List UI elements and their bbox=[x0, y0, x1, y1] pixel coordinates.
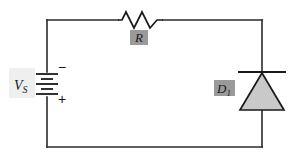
source-label-subscript: S bbox=[23, 84, 28, 95]
diode-anode-triangle bbox=[240, 73, 284, 110]
source-plus-sign: + bbox=[58, 91, 66, 107]
diode-label-subscript: 1 bbox=[226, 88, 231, 98]
resistor-symbol bbox=[118, 12, 163, 28]
diode-label: D1 bbox=[214, 80, 235, 98]
diode-symbol bbox=[238, 72, 286, 110]
voltage-source-symbol bbox=[36, 74, 58, 94]
circuit-diagram: R − + VS bbox=[0, 0, 292, 168]
diode-label-main: D bbox=[216, 81, 227, 96]
resistor-label-text: R bbox=[134, 30, 143, 45]
source-minus-sign: − bbox=[58, 59, 66, 75]
circuit-svg: R − + VS bbox=[0, 0, 292, 168]
source-label: VS bbox=[9, 68, 35, 98]
resistor-zigzag bbox=[118, 12, 163, 28]
resistor-label: R bbox=[130, 30, 148, 45]
